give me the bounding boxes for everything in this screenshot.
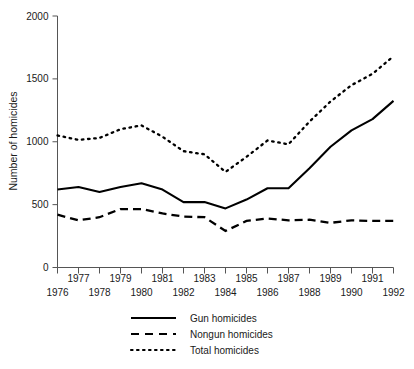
- y-tick-label: 0: [43, 262, 49, 273]
- y-axis-ticks: [53, 16, 58, 268]
- x-tick-label: 1992: [382, 287, 405, 298]
- x-tick-label: 1985: [235, 273, 258, 284]
- legend-label: Total homicides: [190, 345, 259, 356]
- x-axis-tick-labels: 1976197719781979198019811982198319841985…: [46, 273, 405, 298]
- series-line-total-homicides: [58, 56, 394, 172]
- x-tick-label: 1976: [46, 287, 69, 298]
- x-tick-label: 1979: [109, 273, 132, 284]
- y-axis-title: Number of homicides: [7, 91, 19, 190]
- x-tick-label: 1980: [130, 287, 153, 298]
- homicides-line-chart: Number of homicides 0500100015002000 197…: [0, 0, 414, 369]
- x-tick-label: 1991: [361, 273, 384, 284]
- x-tick-label: 1984: [214, 287, 237, 298]
- x-tick-label: 1982: [172, 287, 195, 298]
- y-tick-label: 2000: [26, 11, 49, 22]
- x-tick-label: 1986: [256, 287, 279, 298]
- x-axis-ticks: [58, 268, 394, 274]
- legend-label: Nongun homicides: [190, 329, 273, 340]
- x-tick-label: 1983: [193, 273, 216, 284]
- x-tick-label: 1977: [67, 273, 90, 284]
- chart-legend: Gun homicidesNongun homicidesTotal homic…: [131, 313, 273, 356]
- legend-label: Gun homicides: [190, 313, 257, 324]
- y-tick-label: 500: [32, 199, 49, 210]
- x-tick-label: 1987: [277, 273, 300, 284]
- x-tick-label: 1978: [88, 287, 111, 298]
- data-series-layer: [58, 56, 394, 231]
- x-tick-label: 1990: [340, 287, 363, 298]
- y-axis-tick-labels: 0500100015002000: [26, 11, 49, 274]
- y-tick-label: 1500: [26, 73, 49, 84]
- series-line-gun-homicides: [58, 101, 394, 209]
- x-tick-label: 1989: [319, 273, 342, 284]
- y-tick-label: 1000: [26, 136, 49, 147]
- series-line-nongun-homicides: [58, 209, 394, 231]
- x-tick-label: 1981: [151, 273, 174, 284]
- x-tick-label: 1988: [298, 287, 321, 298]
- chart-container: Number of homicides 0500100015002000 197…: [0, 0, 414, 369]
